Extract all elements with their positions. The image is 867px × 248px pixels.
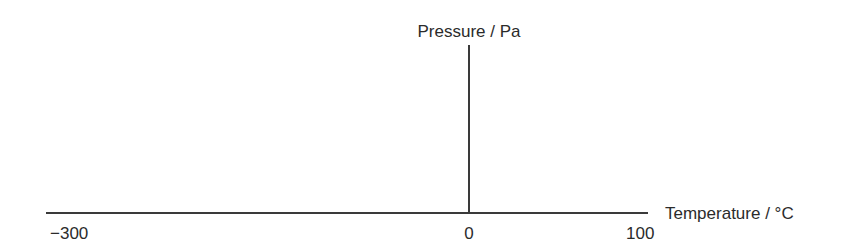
x-tick-zero: 0 — [464, 225, 473, 242]
x-axis-line — [46, 212, 648, 214]
y-axis-line — [468, 45, 470, 214]
x-tick-min: −300 — [50, 225, 88, 242]
x-axis-label: Temperature / °C — [665, 205, 794, 222]
y-axis-label: Pressure / Pa — [418, 23, 521, 40]
x-tick-max: 100 — [626, 225, 654, 242]
